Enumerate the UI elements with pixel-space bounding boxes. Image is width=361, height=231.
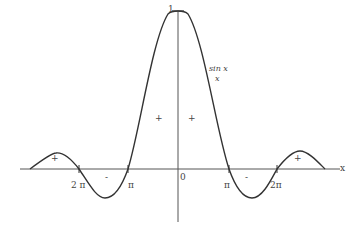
sign-left-mid: - (105, 173, 108, 182)
sign-right-mid: - (245, 173, 248, 182)
sign-left-outer: + (51, 154, 59, 163)
tick-label-pos-2pi: 2π (270, 181, 282, 190)
sign-center-left: + (155, 114, 163, 123)
function-numerator: sin x (209, 65, 228, 73)
tick-label-pos-pi: π (224, 181, 230, 190)
x-axis-label: x (340, 164, 345, 173)
function-denominator: x (215, 75, 220, 83)
peak-label: 1 (168, 5, 174, 14)
tick-label-neg-pi: π (128, 181, 134, 190)
sinc-diagram (0, 0, 361, 231)
origin-label: 0 (180, 173, 186, 182)
sign-center-right: + (188, 114, 196, 123)
sign-right-outer: + (294, 154, 302, 163)
tick-label-neg-2pi: 2 π (71, 181, 86, 190)
